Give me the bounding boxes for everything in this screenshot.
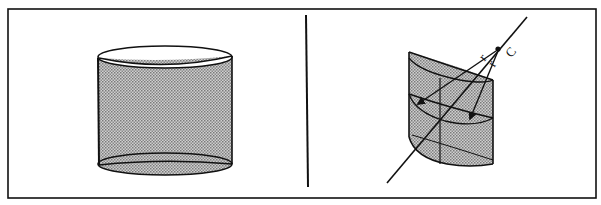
section-surface [409,52,493,166]
figure-frame [8,9,596,198]
cylinder-figure [98,46,232,175]
panel-divider [306,15,308,187]
cylinder-left-edge [98,58,99,165]
point-c [495,46,500,51]
cylinder-section-figure: C r r [387,17,527,183]
figure-canvas: C r r [0,0,601,205]
label-point-c: C [502,44,519,60]
cylinder-bottom-ellipse [98,153,232,175]
